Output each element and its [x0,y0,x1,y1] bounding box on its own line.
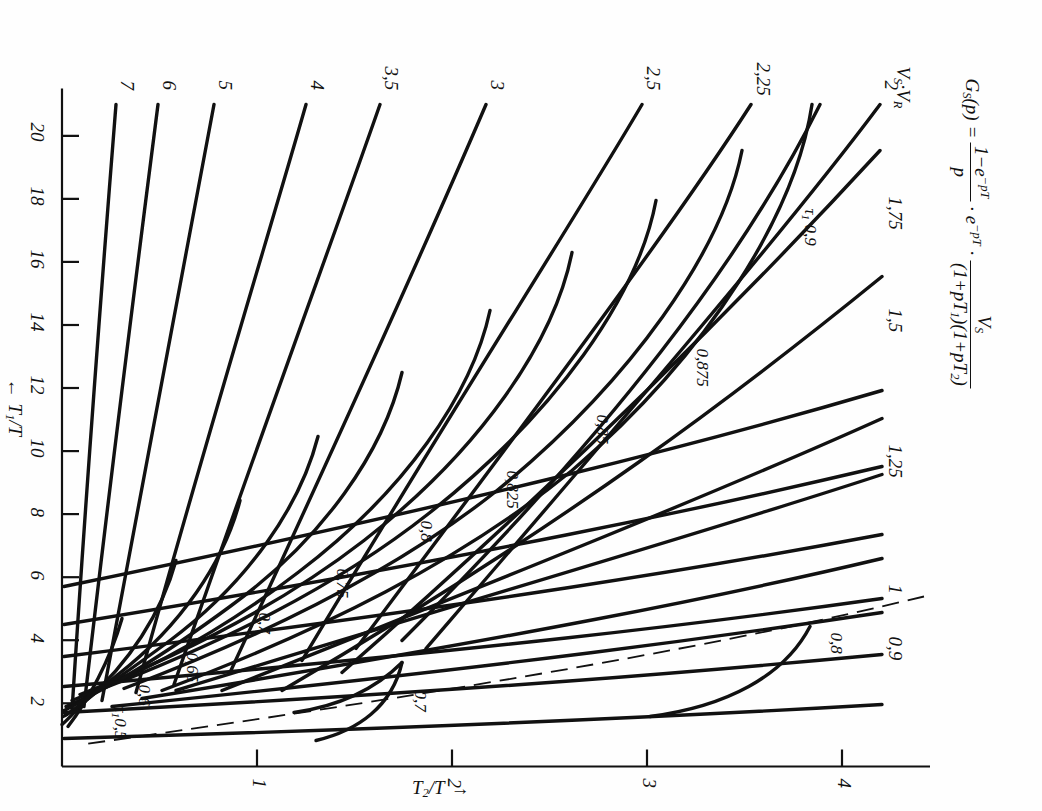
tau-marker-lower-sub: 1 [110,712,122,718]
formula-f2-num-text: V [974,315,995,327]
figure-canvas: .c{fill:none;stroke:#111;stroke-width:3.… [0,0,1042,811]
y-tick-label-3: 4 [833,778,855,788]
tau-marker-upper: τ1 0,9 [800,208,820,245]
formula-f2-den-c: ) [950,379,971,385]
tau-marker-lower: τ10,5 [110,706,130,739]
formula-dot-1: · [962,206,983,211]
y-tick-label-0: 1 [248,778,270,788]
curve-label-tau-08: 0,8 [416,520,436,541]
curve-label-tau-0825: 0,825 [502,470,522,508]
formula-f2-num-sub: S [972,327,986,333]
formula-dot-2: · [962,250,983,255]
curve-label-tau-06: 0,6 [134,684,154,705]
x-axis-title: ← T1/T [2,378,27,436]
curve-label-tau-065: 0,65 [182,652,202,682]
tau-marker-lower-symbol: τ [111,706,130,712]
family-header-gain-v: V [893,66,914,78]
y-tick-label-2: 3 [638,778,660,788]
formula-f1-num-text: 1−e [971,145,992,176]
formula-f2-den-a: (1+pT [950,263,971,312]
formula-f1-num: 1−e−pT [970,142,991,200]
curve-label-tau-top-0: 1,75 [884,196,906,229]
x-tick-label-9: 2 [26,696,48,706]
tau-marker-lower-value: 0,5 [111,718,130,739]
curve-label-gain-6: 5 [214,80,236,90]
curve-label-tau-07: 0,7 [254,612,274,633]
y-axis-label-main: T [412,776,423,797]
x-axis-label: T1/T [2,403,27,436]
x-tick-label-1: 18 [26,186,48,205]
x-axis-label-sub: 1 [3,414,17,420]
curve-label-tau-075: 0,75 [332,568,352,598]
x-tick-label-4: 12 [26,375,48,394]
curve-label-tau-top-2: 1,25 [884,444,906,477]
curve-label-cusp-07: 0,7 [410,690,430,711]
curve-label-tau-top-1: 1,5 [884,308,906,332]
formula-f2-den-b: )(1+pT [950,318,971,373]
curve-label-tau-top-3: 1 [884,584,906,594]
curve-family-gain [72,104,880,710]
x-tick-label-0: 20 [26,122,48,141]
curve-label-gain-2: 2,5 [642,66,664,90]
formula-f2-den-a-sub: 1 [948,311,962,317]
formula-fraction-1: 1−e−pT p [950,142,991,200]
x-tick-label-3: 14 [26,312,48,331]
nomogram-plot: .c{fill:none;stroke:#111;stroke-width:3.… [0,0,1042,811]
tau-marker-upper-value: 0,9 [801,224,820,245]
formula-f2-num: VS [970,260,994,389]
x-tick-label-7: 6 [26,570,48,580]
x-axis-label-main: T [5,403,26,414]
curve-label-gain-5: 4 [306,80,328,90]
curve-label-tau-085: 0,85 [592,414,612,444]
y-axis-arrow: → [451,777,470,799]
formula-f2-den-b-sub: 2 [948,373,962,379]
tau-marker-upper-symbol: τ [801,208,820,214]
formula-lhs: G [962,78,983,92]
curve-label-gain-8: 7 [116,80,138,90]
formula-term2: e [962,215,983,223]
y-axis-label: T2/T [412,776,445,801]
curve-label-tau-0875: 0,875 [692,348,712,386]
curve-family-tau-arcs [62,104,812,726]
x-tick-label-8: 4 [26,633,48,643]
curve-label-gain-4: 3,5 [380,66,402,90]
formula-f2-den: (1+pT1)(1+pT2) [948,260,971,389]
x-tick-label-6: 8 [26,507,48,517]
rotated-page: .c{fill:none;stroke:#111;stroke-width:3.… [0,0,1042,811]
formula-f1-den: p [950,142,970,200]
x-tick-label-5: 10 [26,438,48,457]
curve-label-gain-1: 2,25 [752,62,774,95]
y-axis-title: T2/T → [412,776,470,801]
formula-fraction-2: VS (1+pT1)(1+pT2) [948,260,994,389]
tau-marker-upper-sub: 1 [800,214,812,220]
curve-label-tau-top-4: 0,9 [884,636,906,660]
formula-lhs-arg: (p) [962,98,983,120]
curve-label-gain-0: 2 [880,80,902,90]
formula-lhs-sub: S [960,92,974,98]
y-axis-ticks [257,749,842,766]
curve-label-gain-7: 6 [158,80,180,90]
formula-equals: = [962,125,983,138]
x-axis-arrow: ← [3,378,25,397]
curve-label-cusp-08: 0,8 [826,632,846,653]
formula-term2-sup: −pT [970,224,984,246]
formula-f1-num-sup: −pT [978,176,992,198]
y-axis-label-tail: /T [429,776,445,797]
curve-label-gain-3: 3 [486,80,508,90]
family-header-gain-v2-sub: R [891,100,905,108]
formula: GS(p) = 1−e−pT p · e−pT · VS (1+pT1)(1+p… [948,78,994,388]
x-tick-label-2: 16 [26,249,48,268]
x-axis-label-tail: /T [5,420,26,436]
